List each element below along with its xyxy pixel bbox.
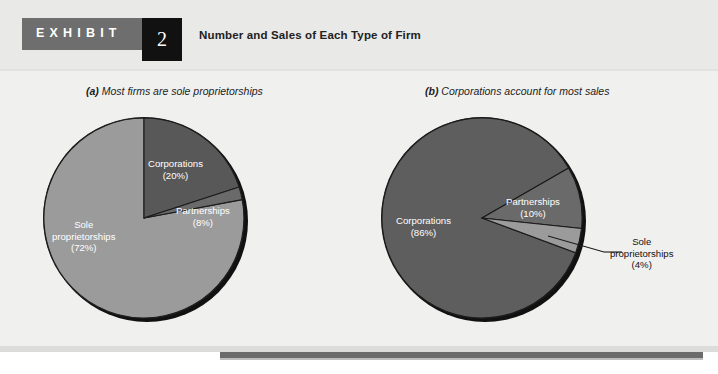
header-band-edge <box>0 69 718 71</box>
pie-chart-b <box>376 112 590 326</box>
exhibit-tag: EXHIBIT <box>22 18 157 50</box>
exhibit-title: Number and Sales of Each Type of Firm <box>199 29 421 41</box>
chart-a-caption: (a) Most firms are sole proprietorships <box>86 85 263 97</box>
footer-rule-shadow <box>220 358 703 360</box>
chart-a-caption-text: Most firms are sole proprietorships <box>99 85 263 97</box>
exhibit-tag-label: EXHIBIT <box>36 26 122 40</box>
pie-b-svg <box>376 112 590 326</box>
pie-a-svg <box>38 112 252 326</box>
exhibit-figure: EXHIBIT 2 Number and Sales of Each Type … <box>0 0 718 374</box>
chart-b-caption-marker: (b) <box>425 85 438 97</box>
exhibit-number-box: 2 <box>142 18 182 61</box>
exhibit-number: 2 <box>142 18 182 61</box>
chart-b-caption: (b) Corporations account for most sales <box>425 85 609 97</box>
pie-b-leader-line <box>548 232 618 262</box>
pie-chart-a <box>38 112 252 326</box>
chart-a-caption-marker: (a) <box>86 85 99 97</box>
chart-b-caption-text: Corporations account for most sales <box>438 85 609 97</box>
